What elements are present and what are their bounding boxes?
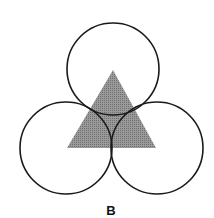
figure-label: B [106, 203, 115, 218]
diagram-canvas: B [0, 0, 214, 218]
shaded-triangle [67, 70, 156, 148]
